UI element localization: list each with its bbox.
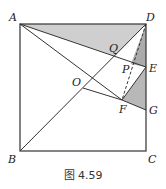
label-g: G <box>149 104 158 117</box>
shaded-triangle-adq <box>20 24 146 56</box>
label-e: E <box>148 62 157 75</box>
label-b: B <box>7 153 16 166</box>
label-f: F <box>118 103 127 116</box>
geometry-figure: A D B C E G F O Q P 图 4.59 <box>0 0 166 189</box>
label-d: D <box>145 11 155 24</box>
label-o: O <box>72 76 81 89</box>
label-q: Q <box>109 42 118 55</box>
segment-of <box>83 88 122 100</box>
label-a: A <box>8 11 17 24</box>
label-p: P <box>121 63 130 76</box>
label-c: C <box>148 153 157 166</box>
figure-caption: 图 4.59 <box>64 169 103 182</box>
